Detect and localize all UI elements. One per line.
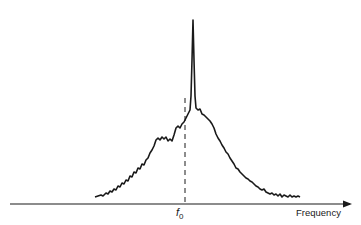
axis-arrow-icon bbox=[343, 201, 352, 208]
f0-subscript: 0 bbox=[179, 212, 183, 221]
x-axis-label: Frequency bbox=[296, 207, 341, 218]
spectrum-curve bbox=[95, 20, 300, 197]
spectrum-figure bbox=[0, 0, 361, 225]
f0-tick-label: f0 bbox=[176, 206, 184, 221]
